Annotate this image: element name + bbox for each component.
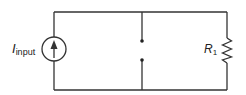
resistor-zigzag bbox=[223, 38, 232, 63]
open-switch bbox=[140, 12, 144, 90]
resistor-label: R1 bbox=[204, 42, 218, 57]
current-source bbox=[42, 37, 66, 61]
terminal-dot-bottom bbox=[140, 58, 144, 62]
current-source-label: Iinput bbox=[12, 41, 36, 57]
arrow-up-icon bbox=[51, 40, 58, 58]
terminal-dot-top bbox=[140, 39, 144, 43]
circuit-diagram: Iinput R1 bbox=[0, 0, 246, 95]
